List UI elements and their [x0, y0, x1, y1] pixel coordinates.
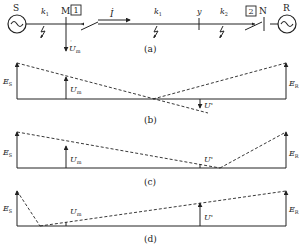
fault-k2-label: k2	[220, 7, 228, 17]
er-label: ER	[288, 149, 299, 159]
panel-b-voltage-profile: ES ER Um U' (b)	[2, 63, 299, 125]
breaker-1-label: 1	[74, 6, 79, 15]
breaker-1-icon	[81, 22, 98, 30]
es-label: ES	[2, 77, 13, 87]
panel-d-voltage-profile: ES ER Um U' (d)	[2, 191, 299, 244]
breaker-2-icon	[245, 22, 262, 30]
panel-c-caption: (c)	[144, 177, 156, 187]
diagram-canvas: S R M 1 Um · İ k1	[0, 0, 306, 249]
fault-k1-middle-icon	[153, 26, 158, 38]
bus-n-label: N	[259, 6, 267, 16]
panel-c-voltage-profile: ES ER Um U' (c)	[2, 132, 299, 187]
um-label: Um	[70, 155, 82, 165]
source-r-label: R	[283, 3, 290, 13]
voltage-profile-line	[153, 63, 286, 99]
panel-d-caption: (d)	[144, 234, 157, 244]
panel-b-caption: (b)	[144, 115, 157, 125]
fault-k1-middle-label: k1	[154, 7, 162, 17]
voltage-profile-line	[40, 191, 286, 226]
fault-k1-left-icon	[40, 26, 45, 38]
fault-k1-left-label: k1	[41, 7, 49, 17]
es-label: ES	[2, 148, 13, 158]
source-s-icon	[8, 15, 26, 33]
point-y-label: y	[196, 7, 202, 16]
measured-voltage-label: Um	[69, 44, 81, 54]
er-label: ER	[288, 79, 299, 89]
u-prime-label: U'	[204, 101, 213, 110]
dot-accent: ·	[70, 37, 72, 44]
um-label: Um	[70, 85, 82, 95]
source-s-label: S	[13, 3, 19, 13]
voltage-profile-line	[220, 132, 286, 168]
voltage-profile-line	[17, 63, 208, 113]
panel-a-caption: (a)	[144, 44, 156, 54]
um-label: Um	[70, 207, 82, 217]
source-r-icon	[278, 15, 296, 33]
fault-k2-icon	[219, 26, 224, 38]
voltage-profile-line	[17, 191, 40, 226]
voltage-profile-line	[17, 132, 220, 168]
bus-m-label: M	[61, 6, 70, 16]
current-label: İ	[109, 8, 114, 19]
u-prime-label: U'	[204, 155, 213, 164]
es-label: ES	[2, 204, 13, 214]
er-label: ER	[288, 205, 299, 215]
breaker-2-label: 2	[249, 7, 254, 16]
panel-a-system-diagram: S R M 1 Um · İ k1	[8, 3, 296, 54]
u-prime-label: U'	[204, 213, 213, 222]
